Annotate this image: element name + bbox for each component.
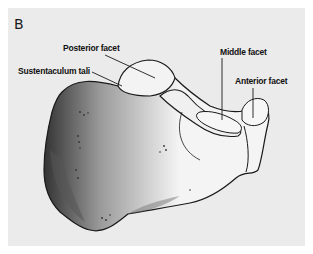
label-middle-facet: Middle facet — [220, 47, 267, 57]
panel-letter: B — [14, 16, 24, 32]
calcaneus-illustration — [0, 0, 313, 254]
label-sustentaculum-tali: Sustentaculum tali — [18, 66, 90, 76]
label-anterior-facet: Anterior facet — [235, 76, 287, 86]
label-posterior-facet: Posterior facet — [63, 43, 120, 53]
anterior-facet-shape — [242, 98, 269, 125]
